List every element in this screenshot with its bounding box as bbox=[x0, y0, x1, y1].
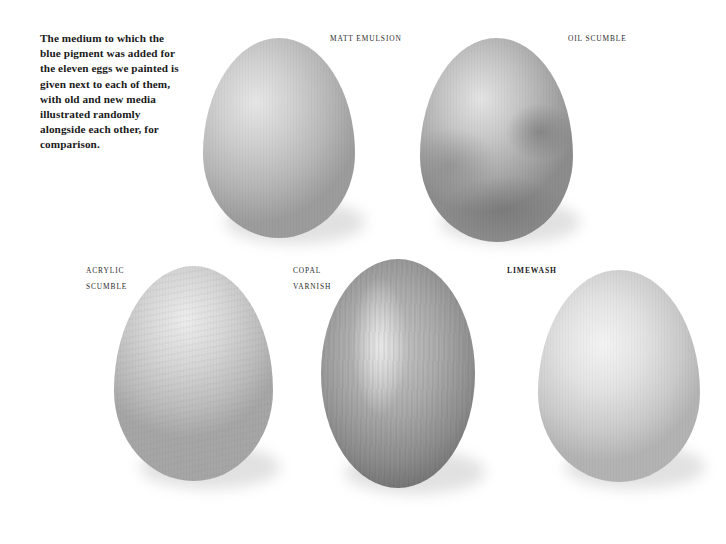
caption-copal-varnish: COPAL VARNISH bbox=[293, 263, 331, 294]
intro-paragraph: The medium to which the blue pigment was… bbox=[40, 31, 180, 153]
egg-acrylic-scumble bbox=[114, 266, 273, 481]
caption-limewash: LIMEWASH bbox=[507, 263, 557, 279]
egg-matt-emulsion bbox=[203, 38, 355, 238]
caption-line: COPAL bbox=[293, 263, 331, 279]
caption-line: VARNISH bbox=[293, 279, 331, 295]
egg-copal-varnish bbox=[321, 259, 475, 488]
caption-line: ACRYLIC bbox=[86, 263, 127, 279]
caption-line: LIMEWASH bbox=[507, 263, 557, 279]
caption-line: SCUMBLE bbox=[86, 279, 127, 295]
egg-limewash bbox=[538, 270, 700, 482]
caption-acrylic-scumble: ACRYLIC SCUMBLE bbox=[86, 263, 127, 294]
caption-line: OIL SCUMBLE bbox=[568, 31, 627, 47]
caption-oil-scumble: OIL SCUMBLE bbox=[568, 31, 627, 47]
caption-line: MATT EMULSION bbox=[330, 31, 402, 47]
egg-oil-scumble bbox=[420, 38, 573, 242]
caption-matt-emulsion: MATT EMULSION bbox=[330, 31, 402, 47]
